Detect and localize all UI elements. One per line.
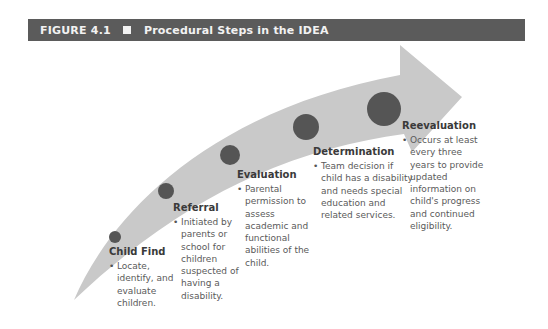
step-title: Reevaluation <box>402 119 486 132</box>
step-description: Parental permission to assess academic a… <box>245 183 317 269</box>
bullet-icon: • <box>237 183 245 269</box>
bullet-icon: • <box>402 134 410 232</box>
step-evaluation: Evaluation • Parental permission to asse… <box>237 168 317 269</box>
step-marker-evaluation <box>220 145 240 165</box>
step-marker-determination <box>293 114 319 140</box>
step-reevaluation: Reevaluation • Occurs at least every thr… <box>402 119 486 232</box>
step-child-find: Child Find • Locate, identify, and evalu… <box>109 245 181 309</box>
step-title: Evaluation <box>237 168 317 181</box>
step-title: Child Find <box>109 245 181 258</box>
step-description: Occurs at least every three years to pro… <box>410 134 486 232</box>
step-determination: Determination • Team decision if child h… <box>313 145 415 221</box>
bullet-icon: • <box>109 260 117 309</box>
bullet-icon: • <box>173 216 181 302</box>
step-marker-child-find <box>109 231 121 243</box>
bullet-icon: • <box>313 160 321 221</box>
step-title: Determination <box>313 145 415 158</box>
step-marker-reevaluation <box>367 92 401 126</box>
step-description: Locate, identify, and evaluate children. <box>117 260 181 309</box>
step-description: Team decision if child has a disability … <box>321 160 415 221</box>
step-marker-referral <box>158 183 174 199</box>
